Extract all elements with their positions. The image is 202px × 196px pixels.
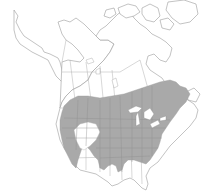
north-america-map [0, 0, 202, 196]
range-map [0, 0, 202, 196]
